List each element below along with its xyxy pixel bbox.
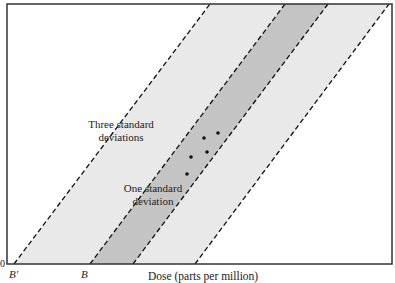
x-tick-b-prime: B' bbox=[9, 268, 18, 280]
three-sd-label: Three standard deviations bbox=[71, 118, 171, 144]
x-tick-b: B bbox=[81, 268, 88, 280]
x-axis-label: Dose (parts per million) bbox=[148, 270, 258, 282]
one-sd-label-line1: One standard bbox=[103, 182, 203, 195]
origin-label: 0 bbox=[0, 258, 5, 269]
three-sd-label-line2: deviations bbox=[71, 131, 171, 144]
three-sd-label-line1: Three standard bbox=[71, 118, 171, 131]
chart-canvas bbox=[0, 0, 395, 283]
one-sd-label-line2: deviation bbox=[103, 195, 203, 208]
one-sd-label: One standard deviation bbox=[103, 182, 203, 208]
